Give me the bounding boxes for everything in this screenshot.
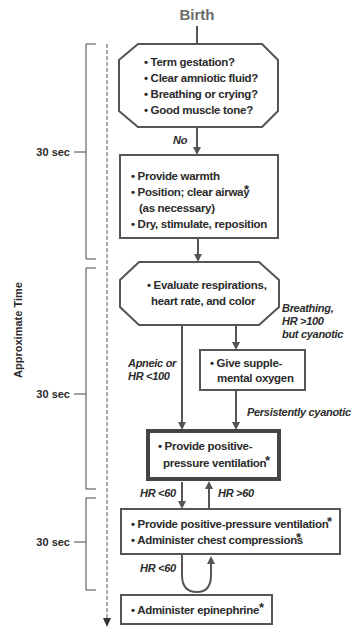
time-bracket-2 [74,268,96,489]
svg-text:• Provide warmth: • Provide warmth [131,170,220,182]
edge-hr-gt-60-label: HR >60 [218,487,255,499]
svg-text:Breathing,: Breathing, [282,302,334,314]
svg-text:HR <100: HR <100 [128,370,171,382]
initial-steps-box: • Provide warmth • Position; clear airwa… [120,155,278,238]
time-bracket-1 [74,44,96,259]
edge-persistently-cyanotic-label: Persistently cyanotic [247,406,351,418]
time-bracket-1-label: 30 sec [36,146,70,158]
svg-text:• Clear amniotic fluid?: • Clear amniotic fluid? [144,72,258,84]
edge-hr-lt-60-label: HR <60 [140,487,177,499]
svg-text:• Provide positive-: • Provide positive- [158,440,253,452]
svg-text:• Term gestation?: • Term gestation? [144,56,235,68]
time-bracket-3 [74,498,96,590]
svg-text:• Evaluate respirations,: • Evaluate respirations, [147,279,267,291]
edge-apneic-label: Apneic or [127,357,177,369]
assessment-octagon: • Term gestation? • Clear amniotic fluid… [119,44,278,127]
epinephrine-box: • Administer epinephrine * [121,595,272,624]
svg-text:(as necessary): (as necessary) [139,202,215,214]
svg-text:• Administer epinephrine: • Administer epinephrine [131,604,259,616]
timeline-arrow-icon [103,618,111,627]
svg-text:• Position; clear airway: • Position; clear airway [131,186,250,198]
neonatal-resuscitation-flowchart: Birth Approximate Time 30 sec 30 sec 30 … [0,0,356,637]
time-bracket-3-label: 30 sec [36,536,70,548]
ppv-box: • Provide positive- pressure ventilation… [148,431,279,479]
ppv-compressions-box: • Provide positive-pressure ventilation … [121,509,340,554]
svg-text:mental oxygen: mental oxygen [217,372,294,384]
svg-text:pressure ventilation: pressure ventilation [163,457,267,469]
svg-text:heart rate, and color: heart rate, and color [151,295,256,307]
svg-text:• Administer chest compression: • Administer chest compressions [131,534,303,546]
birth-title: Birth [180,6,215,23]
svg-text:• Breathing or crying?: • Breathing or crying? [144,88,258,100]
supplemental-oxygen-box: • Give supple- mental oxygen [200,350,305,390]
time-bracket-2-label: 30 sec [36,388,70,400]
svg-text:but cyanotic: but cyanotic [282,328,343,340]
approximate-time-label: Approximate Time [12,282,24,378]
edge-no-label: No [173,134,188,146]
edge-compressions-loop [182,554,211,592]
svg-text:• Good muscle tone?: • Good muscle tone? [144,104,253,116]
svg-text:• Dry, stimulate, reposition: • Dry, stimulate, reposition [131,218,267,230]
svg-text:HR >100: HR >100 [282,315,325,327]
svg-text:• Give supple-: • Give supple- [210,357,283,369]
edge-breathing-label: Breathing, HR >100 but cyanotic [282,302,343,340]
evaluate-octagon: • Evaluate respirations, heart rate, and… [120,262,279,325]
svg-text:• Provide positive-pressure ve: • Provide positive-pressure ventilation [131,518,329,530]
edge-hr-lt-60-b-label: HR <60 [140,562,177,574]
